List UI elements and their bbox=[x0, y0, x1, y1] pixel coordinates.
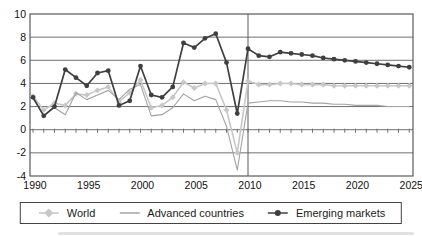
svg-text:2010: 2010 bbox=[238, 179, 262, 191]
legend-label-world: World bbox=[67, 207, 96, 219]
plot-svg: 1086420-2-419901995200020052010201520202… bbox=[0, 0, 422, 200]
emerging-markets-dot-marker-icon bbox=[266, 208, 290, 218]
svg-text:0: 0 bbox=[20, 123, 26, 135]
svg-text:2000: 2000 bbox=[131, 179, 155, 191]
legend-item-world: World bbox=[37, 207, 96, 219]
legend-item-emerging-markets: Emerging markets bbox=[266, 207, 385, 219]
advanced-countries-line-marker-icon bbox=[117, 208, 141, 218]
plot-area: 1086420-2-419901995200020052010201520202… bbox=[0, 0, 422, 204]
legend-item-advanced-countries: Advanced countries bbox=[117, 207, 244, 219]
growth-line-chart-figure: 1086420-2-419901995200020052010201520202… bbox=[0, 0, 422, 236]
world-diamond-marker-icon bbox=[37, 208, 61, 218]
svg-text:6: 6 bbox=[20, 54, 26, 66]
svg-text:1995: 1995 bbox=[77, 179, 101, 191]
svg-text:2005: 2005 bbox=[185, 179, 209, 191]
svg-text:2015: 2015 bbox=[292, 179, 316, 191]
svg-text:8: 8 bbox=[20, 31, 26, 43]
legend-label-advanced-countries: Advanced countries bbox=[147, 207, 244, 219]
legend: World Advanced countries Emerging market… bbox=[20, 202, 402, 224]
svg-text:-2: -2 bbox=[17, 146, 26, 158]
svg-text:4: 4 bbox=[20, 77, 26, 89]
scan-shadow-artifact bbox=[58, 232, 414, 235]
svg-text:2: 2 bbox=[20, 100, 26, 112]
svg-text:2025: 2025 bbox=[400, 179, 422, 191]
legend-label-emerging-markets: Emerging markets bbox=[296, 207, 385, 219]
svg-text:2020: 2020 bbox=[346, 179, 370, 191]
svg-text:10: 10 bbox=[14, 8, 26, 20]
svg-text:1990: 1990 bbox=[23, 179, 47, 191]
